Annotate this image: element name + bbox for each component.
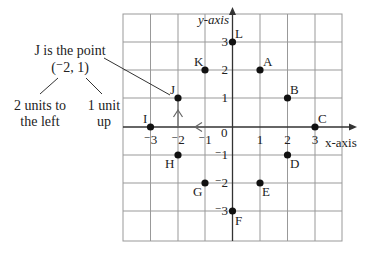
svg-text:B: B — [290, 82, 299, 97]
svg-text:⁻2: ⁻2 — [171, 132, 184, 147]
point-i — [147, 123, 154, 130]
point-j — [174, 94, 181, 101]
svg-text:3: 3 — [222, 34, 229, 49]
svg-text:I: I — [143, 111, 147, 126]
svg-text:E: E — [262, 184, 270, 199]
svg-text:C: C — [318, 111, 327, 126]
svg-text:L: L — [235, 26, 243, 41]
svg-text:⁻1: ⁻1 — [215, 147, 228, 162]
svg-text:1: 1 — [222, 90, 229, 105]
svg-text:3: 3 — [312, 132, 319, 147]
x-tick-labels: ⁻3 ⁻2 ⁻1 1 2 3 — [144, 132, 318, 147]
x-axis-label: x-axis — [325, 135, 357, 150]
svg-text:H: H — [165, 156, 174, 171]
svg-text:G: G — [193, 184, 202, 199]
svg-text:J is the point: J is the point — [34, 43, 105, 58]
svg-text:F: F — [235, 213, 242, 228]
svg-text:A: A — [263, 54, 273, 69]
svg-text:⁻3: ⁻3 — [215, 203, 228, 218]
y-axis-label: y-axis — [196, 12, 229, 27]
svg-text:K: K — [194, 54, 204, 69]
point-h — [174, 151, 181, 158]
svg-text:⁻3: ⁻3 — [144, 132, 157, 147]
svg-text:the left: the left — [20, 114, 59, 129]
svg-text:(⁻2, 1): (⁻2, 1) — [51, 60, 89, 76]
point-j-annotation: J is the point (⁻2, 1) 2 units to the le… — [14, 43, 120, 129]
svg-text:⁻1: ⁻1 — [198, 132, 211, 147]
svg-text:2 units to: 2 units to — [14, 98, 66, 113]
svg-text:2: 2 — [284, 132, 291, 147]
svg-text:up: up — [97, 114, 111, 129]
coordinate-diagram: y-axis x-axis 0 ⁻3 ⁻2 ⁻1 1 2 3 3 2 1 ⁻1 … — [0, 0, 367, 255]
svg-text:1: 1 — [257, 132, 264, 147]
move-up-arrow — [174, 100, 183, 127]
svg-text:2: 2 — [222, 62, 229, 77]
point-g — [201, 179, 208, 186]
svg-text:J: J — [170, 82, 175, 97]
svg-text:1 unit: 1 unit — [88, 98, 120, 113]
svg-text:D: D — [290, 156, 299, 171]
svg-text:⁻2: ⁻2 — [215, 175, 228, 190]
